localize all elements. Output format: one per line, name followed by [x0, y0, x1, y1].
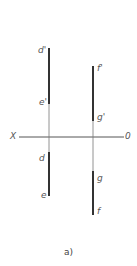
- label-g: g: [97, 174, 103, 183]
- label-e-prime: e': [39, 98, 47, 107]
- label-e: e: [41, 191, 47, 200]
- label-d: d: [39, 154, 45, 163]
- axis-label-x: X: [10, 132, 16, 141]
- label-d-prime: d': [38, 46, 46, 55]
- projection-diagram: [0, 0, 137, 266]
- label-g-prime: g': [97, 113, 105, 122]
- figure-caption: a): [64, 248, 73, 257]
- label-f: f: [97, 207, 100, 216]
- label-f-prime: f': [97, 64, 103, 73]
- axis-label-0: 0: [125, 132, 131, 141]
